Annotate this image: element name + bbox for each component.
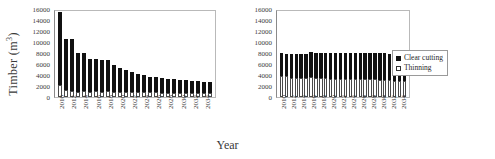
- y-axis-ticks-right: 1600014000120001000080006000400020000: [240, 10, 274, 98]
- y-tick-label: 10000: [255, 40, 273, 47]
- bar-segment-clear-cutting: [106, 60, 110, 91]
- stacked-bar: [280, 53, 283, 97]
- bar-segment-clear-cutting: [178, 80, 182, 93]
- chart-panel-left: Timber (m3) 1600014000120001000080006000…: [6, 10, 216, 110]
- legend-item-thinning: Thinning: [396, 63, 443, 73]
- y-axis-unit-exponent: 3: [5, 37, 14, 41]
- stacked-bar: [124, 70, 128, 97]
- y-tick-label: 8000: [36, 51, 50, 58]
- y-tick-label: 0: [47, 95, 51, 102]
- stacked-bar: [130, 72, 134, 97]
- stacked-bar: [58, 12, 62, 97]
- stacked-bar: [118, 68, 122, 97]
- stacked-bar: [314, 53, 317, 97]
- stacked-bar: [373, 53, 376, 97]
- chart-panel-right: 1600014000120001000080006000400020000 20…: [240, 10, 410, 110]
- stacked-bar: [329, 53, 332, 97]
- stacked-bar: [339, 53, 342, 97]
- stacked-bar: [304, 54, 307, 97]
- stacked-bar: [70, 39, 74, 97]
- bar-segment-clear-cutting: [142, 75, 146, 92]
- bar-segment-clear-cutting: [304, 54, 307, 78]
- stacked-bar: [324, 53, 327, 97]
- bar-segment-clear-cutting: [324, 53, 327, 78]
- bar-segment-clear-cutting: [136, 74, 140, 92]
- y-tick-label: 4000: [258, 73, 272, 80]
- y-tick-label: 16000: [33, 7, 51, 14]
- bar-segment-clear-cutting: [58, 12, 62, 86]
- stacked-bar: [290, 54, 293, 97]
- y-tick-label: 14000: [33, 18, 51, 25]
- bar-segment-clear-cutting: [118, 68, 122, 91]
- bar-segment-clear-cutting: [363, 53, 366, 79]
- bar-segment-thinning: [309, 77, 312, 97]
- bar-segment-clear-cutting: [154, 77, 158, 92]
- y-tick-label: 0: [269, 95, 273, 102]
- stacked-bar: [378, 53, 381, 97]
- stacked-bar: [285, 54, 288, 97]
- stacked-bar: [136, 74, 140, 97]
- stacked-bar: [112, 65, 116, 97]
- stacked-bar: [388, 54, 391, 97]
- stacked-bar: [82, 53, 86, 97]
- stacked-bar: [383, 53, 386, 97]
- x-axis-title-text: Year: [216, 138, 238, 153]
- stacked-bar: [354, 53, 357, 97]
- bar-group-left: [57, 11, 213, 97]
- bar-segment-clear-cutting: [368, 53, 371, 79]
- bar-segment-clear-cutting: [76, 53, 80, 92]
- bar-segment-clear-cutting: [314, 53, 317, 77]
- stacked-bar: [100, 60, 104, 97]
- bar-segment-clear-cutting: [388, 54, 391, 81]
- y-tick-label: 2000: [258, 84, 272, 91]
- stacked-bar: [299, 54, 302, 97]
- bar-segment-clear-cutting: [290, 54, 293, 78]
- bar-segment-clear-cutting: [166, 79, 170, 93]
- bar-segment-clear-cutting: [334, 53, 337, 79]
- y-tick-label: 2000: [36, 84, 50, 91]
- stacked-bar: [368, 53, 371, 97]
- stacked-bar: [359, 53, 362, 97]
- legend: Clear cutting Thinning: [392, 50, 448, 76]
- bar-segment-clear-cutting: [100, 60, 104, 91]
- legend-swatch-filled-square-icon: [396, 56, 401, 61]
- y-tick-label: 14000: [255, 18, 273, 25]
- bar-segment-clear-cutting: [130, 72, 134, 92]
- stacked-bar: [295, 54, 298, 97]
- bar-segment-clear-cutting: [202, 82, 206, 94]
- bar-segment-clear-cutting: [172, 79, 176, 92]
- bar-group-right: [279, 11, 407, 97]
- bar-segment-clear-cutting: [329, 53, 332, 78]
- bar-segment-clear-cutting: [112, 65, 116, 91]
- bar-segment-clear-cutting: [319, 53, 322, 78]
- bar-segment-clear-cutting: [285, 54, 288, 77]
- figure: Timber (m3) 1600014000120001000080006000…: [0, 0, 495, 159]
- y-tick-label: 16000: [255, 7, 273, 14]
- y-tick-label: 6000: [36, 62, 50, 69]
- bar-segment-clear-cutting: [184, 80, 188, 93]
- y-tick-label: 4000: [36, 73, 50, 80]
- legend-label-clear-cutting: Clear cutting: [404, 53, 443, 63]
- stacked-bar: [106, 60, 110, 97]
- stacked-bar: [349, 53, 352, 97]
- bar-segment-clear-cutting: [208, 82, 212, 93]
- bar-segment-clear-cutting: [280, 53, 283, 76]
- stacked-bar: [142, 75, 146, 97]
- bar-segment-clear-cutting: [190, 81, 194, 93]
- bar-segment-clear-cutting: [383, 53, 386, 80]
- bar-segment-thinning: [280, 76, 283, 97]
- stacked-bar: [64, 39, 68, 97]
- y-tick-label: 12000: [255, 29, 273, 36]
- bar-segment-clear-cutting: [299, 54, 302, 78]
- y-tick-label: 8000: [258, 51, 272, 58]
- y-axis-ticks-left: 1600014000120001000080006000400020000: [18, 10, 52, 98]
- stacked-bar: [88, 59, 92, 98]
- bar-segment-clear-cutting: [82, 53, 86, 91]
- stacked-bar: [309, 52, 312, 97]
- bar-segment-clear-cutting: [339, 53, 342, 79]
- bar-segment-clear-cutting: [196, 81, 200, 93]
- bar-segment-clear-cutting: [88, 59, 92, 92]
- plot-area-left: [54, 10, 216, 98]
- y-tick-label: 6000: [258, 62, 272, 69]
- plot-area-right: [276, 10, 410, 98]
